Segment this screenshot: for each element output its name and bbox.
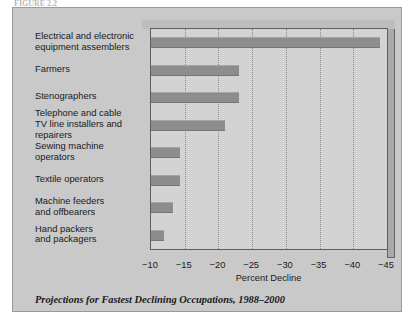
category-label: Textile operators bbox=[35, 174, 147, 185]
category-label-line: operators bbox=[35, 152, 147, 163]
gridline bbox=[320, 29, 321, 249]
bar bbox=[151, 65, 239, 76]
x-tick-label: −40 bbox=[337, 260, 367, 270]
gridline bbox=[353, 29, 354, 249]
bar bbox=[151, 120, 225, 131]
gridline bbox=[252, 29, 253, 249]
gridline bbox=[218, 29, 219, 249]
figure-panel: Electrical and electronicequipment assem… bbox=[12, 7, 402, 312]
x-tick-label: −25 bbox=[236, 260, 266, 270]
x-tick-label: −20 bbox=[202, 260, 232, 270]
category-label-line: Farmers bbox=[35, 64, 147, 75]
category-label-line: and packagers bbox=[35, 234, 147, 245]
category-label-list: Electrical and electronicequipment assem… bbox=[35, 20, 143, 258]
category-label: Hand packersand packagers bbox=[35, 224, 147, 245]
category-label-line: TV line installers and bbox=[35, 119, 147, 130]
x-tick-label: −35 bbox=[304, 260, 334, 270]
x-tick-label: −30 bbox=[270, 260, 300, 270]
category-label: Telephone and cableTV line installers an… bbox=[35, 108, 147, 140]
category-label-line: repairers bbox=[35, 130, 147, 141]
chart-3d-panel bbox=[142, 20, 395, 258]
gridline bbox=[286, 29, 287, 249]
category-label: Sewing machineoperators bbox=[35, 141, 147, 162]
bar bbox=[151, 230, 164, 241]
figure-caption: Projections for Fastest Declining Occupa… bbox=[35, 294, 385, 305]
x-tick-label: −45 bbox=[371, 260, 401, 270]
category-label: Stenographers bbox=[35, 91, 147, 102]
plot-area bbox=[150, 28, 388, 250]
panel-right-face bbox=[387, 28, 395, 258]
category-label-line: equipment assemblers bbox=[35, 42, 147, 53]
x-axis-tick-labels: −10−15−20−25−30−35−40−45 bbox=[142, 260, 395, 272]
category-label: Farmers bbox=[35, 64, 147, 75]
x-tick-label: −15 bbox=[169, 260, 199, 270]
bar bbox=[151, 175, 180, 186]
gridline bbox=[387, 29, 388, 249]
cropped-header-fragment: FIGURE 2.2 bbox=[14, 0, 92, 7]
category-label-line: Textile operators bbox=[35, 174, 147, 185]
bar bbox=[151, 202, 173, 213]
category-label: Machine feedersand offbearers bbox=[35, 196, 147, 217]
category-label-line: Stenographers bbox=[35, 91, 147, 102]
x-axis-title: Percent Decline bbox=[142, 273, 395, 283]
category-label-line: and offbearers bbox=[35, 207, 147, 218]
bar bbox=[151, 92, 239, 103]
category-label: Electrical and electronicequipment assem… bbox=[35, 31, 147, 52]
bar bbox=[151, 147, 180, 158]
x-tick-label: −10 bbox=[135, 260, 165, 270]
gridline bbox=[185, 29, 186, 249]
bar bbox=[151, 37, 380, 48]
